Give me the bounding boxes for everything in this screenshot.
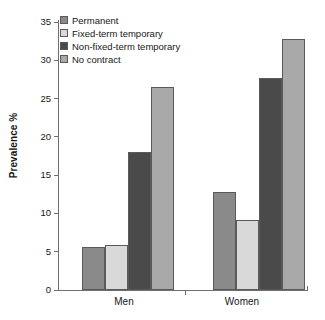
y-tick-label-30: 30	[40, 53, 51, 66]
bar-women-no-contract	[282, 39, 305, 290]
y-axis-title: Prevalence %	[2, 0, 26, 290]
y-tick-label-0: 0	[46, 283, 51, 296]
legend-item-non-fixed-term-temporary: Non-fixed-term temporary	[60, 40, 180, 52]
bar-men-no-contract	[151, 87, 174, 290]
legend-item-permanent: Permanent	[60, 14, 180, 26]
bar-women-fixed-term-temporary	[236, 220, 259, 290]
bar-women-non-fixed-term-temporary	[259, 78, 282, 290]
y-tick-label-20: 20	[40, 130, 51, 143]
legend-item-fixed-term-temporary: Fixed-term temporary	[60, 27, 180, 39]
x-group-label-men: Men	[78, 296, 170, 307]
legend-item-no-contract: No contract	[60, 53, 180, 65]
legend-label-fixed-term-temporary: Fixed-term temporary	[72, 28, 163, 39]
legend-swatch-icon-fixed-term-temporary	[60, 29, 68, 37]
x-axis-line	[58, 290, 308, 291]
bar-men-non-fixed-term-temporary	[128, 152, 151, 290]
y-tick-label-5: 5	[46, 245, 51, 258]
x-axis-group-divider-tick	[185, 290, 186, 295]
legend-swatch-icon-no-contract	[60, 55, 68, 63]
y-tick-label-35: 35	[40, 15, 51, 28]
bar-men-permanent	[82, 247, 105, 290]
legend-swatch-icon-non-fixed-term-temporary	[60, 42, 68, 50]
y-axis: 35 30 25 20 15 10 5 0	[26, 22, 58, 290]
bar-women-permanent	[213, 192, 236, 290]
legend-label-no-contract: No contract	[72, 54, 121, 65]
legend-label-non-fixed-term-temporary: Non-fixed-term temporary	[72, 41, 180, 52]
x-group-label-women: Women	[196, 296, 288, 307]
y-tick-label-10: 10	[40, 206, 51, 219]
legend-swatch-icon-permanent	[60, 16, 68, 24]
legend-label-permanent: Permanent	[72, 15, 118, 26]
grouped-bar-chart: Prevalence % 35 30 25 20 15 10 5	[0, 0, 325, 320]
bar-men-fixed-term-temporary	[105, 245, 128, 290]
legend: Permanent Fixed-term temporary Non-fixed…	[60, 14, 180, 65]
y-tick-label-25: 25	[40, 92, 51, 105]
y-tick-label-15: 15	[40, 168, 51, 181]
y-axis-title-text: Prevalence %	[9, 112, 20, 178]
